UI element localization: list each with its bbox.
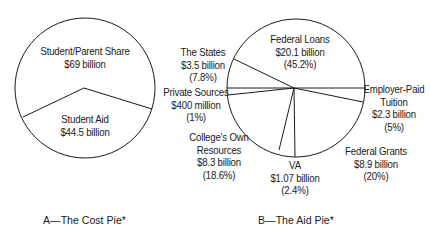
label-pct: (18.6%) — [186, 169, 252, 182]
label-pct: (5%) — [359, 121, 429, 134]
label-name: The States — [173, 46, 234, 59]
label-colleges-own-resources: College's Own Resources $8.3 billion (18… — [186, 131, 252, 181]
label-amount: $8.9 billion — [339, 158, 413, 171]
label-pct: (1%) — [163, 111, 229, 124]
label-name: VA — [265, 159, 326, 172]
label-va: VA $1.07 billion (2.4%) — [265, 159, 326, 197]
label-federal-grants: Federal Grants $8.9 billion (20%) — [339, 145, 413, 183]
label-private-sources: Private Sources $400 million (1%) — [163, 86, 229, 124]
aid-pie-divider-employer-grants — [294, 88, 363, 102]
label-amount: $8.3 billion — [186, 156, 252, 169]
label-amount: $20.1 billion — [263, 46, 337, 59]
label-name-line2: Resources — [186, 144, 252, 157]
label-student-parent-share: Student/Parent Share $69 billion — [34, 45, 135, 70]
label-federal-loans: Federal Loans $20.1 billion (45.2%) — [263, 33, 337, 71]
label-name-line2: Tuition — [359, 96, 429, 109]
label-pct: (2.4%) — [265, 184, 326, 197]
label-name-line1: Employer-Paid — [359, 83, 429, 96]
label-amount: $69 billion — [34, 58, 135, 71]
label-amount: $44.5 billion — [48, 126, 122, 139]
label-name: Private Sources — [163, 86, 229, 99]
aid-pie-divider-college-private — [228, 88, 294, 95]
label-the-states: The States $3.5 billion (7.8%) — [173, 46, 234, 84]
label-name: Student Aid — [48, 113, 122, 126]
label-pct: (45.2%) — [263, 58, 337, 71]
label-name: Student/Parent Share — [34, 45, 135, 58]
aid-pie-caption: B—The Aid Pie* — [258, 214, 334, 226]
label-name: Federal Grants — [339, 145, 413, 158]
cost-pie-caption: A—The Cost Pie* — [43, 214, 126, 226]
label-name-line1: College's Own — [186, 131, 252, 144]
label-amount: $400 million — [163, 99, 229, 112]
aid-pie-divider-grants-va — [294, 88, 295, 157]
label-pct: (7.8%) — [173, 71, 234, 84]
label-amount: $3.5 billion — [173, 59, 234, 72]
label-employer-paid-tuition: Employer-Paid Tuition $2.3 billion (5%) — [359, 83, 429, 133]
label-amount: $1.07 billion — [265, 172, 326, 185]
label-name: Federal Loans — [263, 33, 337, 46]
aid-pie-divider-va-college — [279, 88, 294, 150]
label-amount: $2.3 billion — [359, 108, 429, 121]
label-pct: (20%) — [339, 170, 413, 183]
label-student-aid: Student Aid $44.5 billion — [48, 113, 122, 138]
